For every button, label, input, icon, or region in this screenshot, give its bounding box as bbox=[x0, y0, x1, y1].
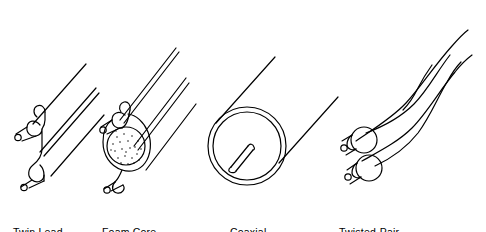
cable-types-diagram bbox=[0, 0, 486, 232]
diagram-background bbox=[0, 0, 486, 232]
caption-twin-lead-text: Twin Lead bbox=[13, 226, 63, 232]
caption-twisted-pair: Twisted-Pair bbox=[339, 200, 399, 232]
caption-twin-lead: Twin Lead bbox=[13, 200, 63, 232]
cable-types-figure: Twin Lead Foam Core Twin Lead Coaxial Tw… bbox=[0, 0, 486, 232]
caption-foam-core-line1: Foam Core bbox=[102, 226, 156, 232]
caption-foam-core-twin-lead: Foam Core Twin Lead bbox=[102, 200, 156, 232]
caption-coaxial: Coaxial bbox=[230, 200, 266, 232]
caption-twisted-pair-text: Twisted-Pair bbox=[339, 226, 399, 232]
caption-coaxial-text: Coaxial bbox=[230, 226, 266, 232]
